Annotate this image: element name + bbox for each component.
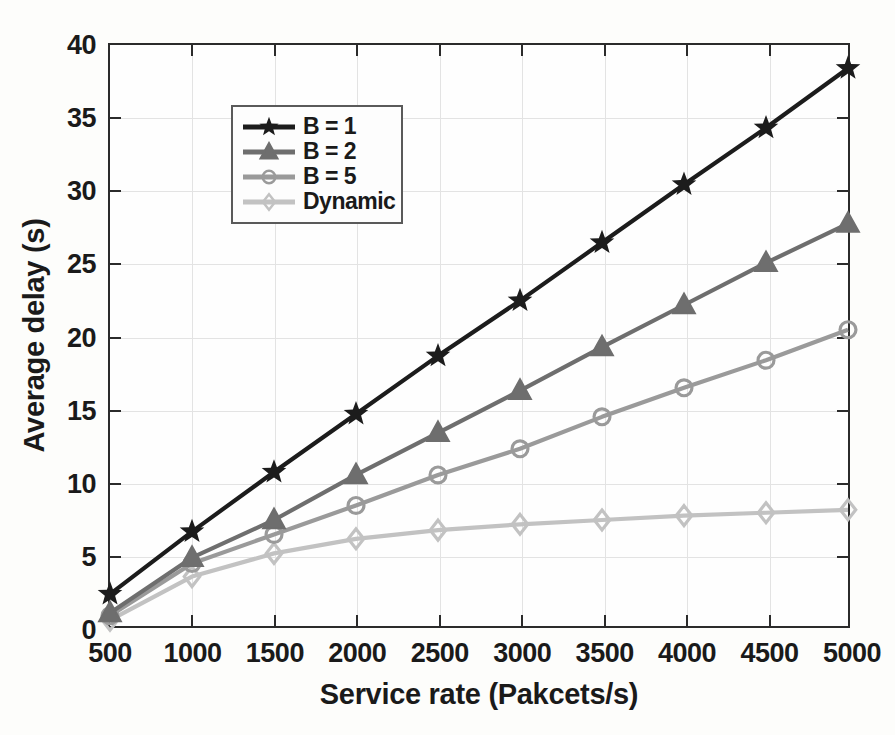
legend[interactable]: B = 1B = 2B = 5Dynamic (231, 105, 403, 224)
legend-item-b-1[interactable]: B = 1 (241, 114, 393, 139)
legend-marker-circle-icon (241, 166, 297, 188)
series-line (110, 330, 848, 616)
legend-item-b-2[interactable]: B = 2 (241, 139, 393, 164)
y-axis-title-text: Average delay (s) (18, 219, 51, 453)
figure-canvas: Average delay (s) 0510152025303540500100… (0, 0, 895, 735)
x-tick-label: 1000 (163, 626, 221, 669)
legend-marker-star-icon (241, 116, 297, 138)
legend-item-b-5[interactable]: B = 5 (241, 164, 393, 189)
legend-marker-triangle-icon (241, 141, 297, 163)
series-line (110, 510, 848, 620)
series-dynamic (102, 500, 856, 630)
x-tick-label: 2000 (328, 626, 386, 669)
y-tick-label: 40 (67, 30, 110, 61)
x-tick-label: 3500 (576, 626, 634, 669)
y-tick-label: 35 (67, 103, 110, 134)
x-tick-label: 1500 (246, 626, 304, 669)
legend-item-dynamic[interactable]: Dynamic (241, 189, 393, 214)
legend-label: B = 1 (297, 115, 356, 138)
legend-label: B = 2 (297, 140, 356, 163)
x-tick-label: 3000 (493, 626, 551, 669)
x-tick-label: 4000 (658, 626, 716, 669)
y-tick-label: 5 (81, 541, 110, 572)
x-tick-label: 2500 (411, 626, 469, 669)
y-axis-title: Average delay (s) (14, 43, 54, 628)
x-tick-label: 4500 (741, 626, 799, 669)
y-tick-label: 10 (67, 468, 110, 499)
legend-label: B = 5 (297, 165, 356, 188)
x-tick-label: 5000 (823, 626, 881, 669)
legend-label: Dynamic (297, 190, 395, 213)
series-b-2 (99, 212, 859, 621)
series-b-1 (98, 55, 861, 604)
y-tick-label: 15 (67, 395, 110, 426)
data-point-marker (509, 379, 531, 399)
data-point-marker (837, 212, 859, 232)
series-b-5 (102, 322, 856, 624)
data-series-layer (110, 45, 848, 626)
legend-marker-diamond-icon (241, 191, 297, 213)
x-axis-title-text: Service rate (Pakcets/s) (320, 678, 638, 710)
y-tick-label: 20 (67, 322, 110, 353)
y-tick-label: 25 (67, 249, 110, 280)
data-point-marker (263, 509, 285, 529)
y-tick-label: 30 (67, 176, 110, 207)
x-axis-title: Service rate (Pakcets/s) (108, 678, 850, 711)
plot-area: 0510152025303540500100015002000250030003… (108, 43, 850, 628)
